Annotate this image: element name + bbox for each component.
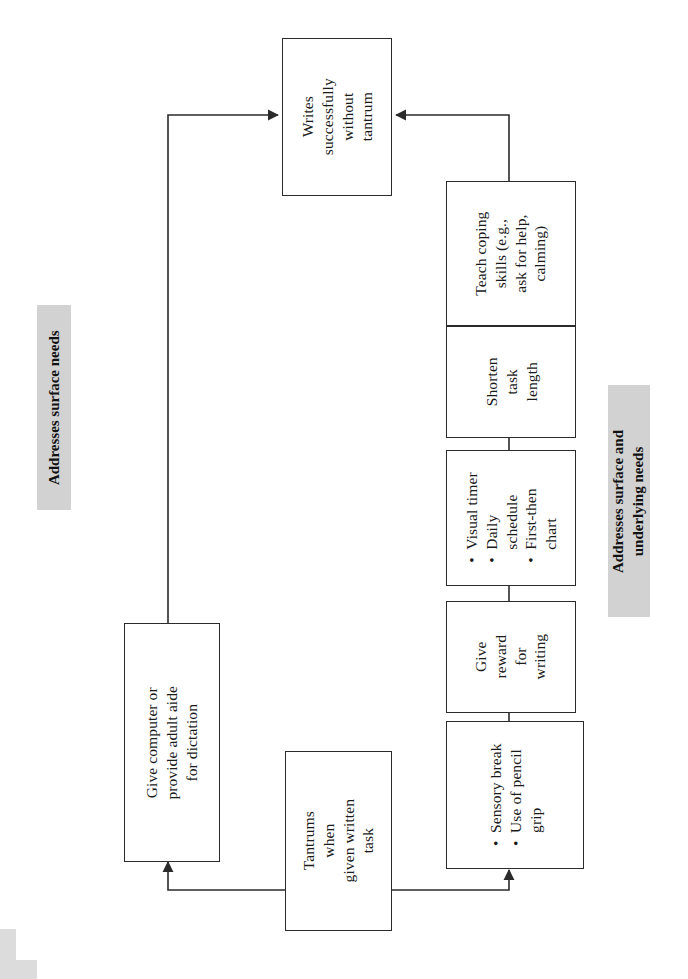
node-shorten-task-length-label: Shorten task length xyxy=(481,358,540,407)
node-coping-skills[interactable]: Teach coping skills (e.g., ask for help,… xyxy=(446,181,576,326)
node-visual-supports-label: •Visual timer •Daily schedule •First-the… xyxy=(461,473,560,564)
page-edge-artifact-horizontal xyxy=(0,960,37,979)
bullet-item: •Visual timer xyxy=(461,473,481,564)
bullet-item: •First-then chart xyxy=(521,473,561,564)
node-sensory-supports[interactable]: •Sensory break •Use of pencil grip xyxy=(446,721,584,869)
node-coping-skills-label: Teach coping skills (e.g., ask for help,… xyxy=(471,211,550,295)
band-addresses-surface-and-underlying-needs: Addresses surface and underlying needs xyxy=(608,385,650,617)
diagram-canvas: Addresses surface needs Addresses surfac… xyxy=(0,0,688,979)
band-surface-underlying-line-0: Addresses surface and xyxy=(610,429,630,572)
node-visual-supports[interactable]: •Visual timer •Daily schedule •First-the… xyxy=(446,450,576,586)
node-sensory-supports-label: •Sensory break •Use of pencil grip xyxy=(485,744,544,847)
bullet-item: •Sensory break xyxy=(485,744,505,847)
band-surface-line-0: Addresses surface needs xyxy=(44,330,64,485)
bullet-item: •Daily schedule xyxy=(481,473,521,564)
node-trigger-tantrums-label: Tantrums when given written task xyxy=(299,799,378,883)
edge-trigger-to-sensory xyxy=(392,870,509,890)
band-addresses-surface-needs: Addresses surface needs xyxy=(37,305,71,510)
edge-coping-to-outcome xyxy=(396,115,509,181)
node-give-reward[interactable]: Give reward for writing xyxy=(446,601,576,713)
edge-dictation-to-outcome xyxy=(168,115,278,623)
node-dictation-support[interactable]: Give computer or provide adult aide for … xyxy=(124,623,220,862)
bullet-item: •Use of pencil grip xyxy=(505,744,545,847)
edge-trigger-to-dictation xyxy=(168,862,285,890)
node-shorten-task-length[interactable]: Shorten task length xyxy=(446,326,576,438)
node-trigger-tantrums[interactable]: Tantrums when given written task xyxy=(285,751,392,931)
band-surface-underlying-line-1: underlying needs xyxy=(629,429,649,572)
node-give-reward-label: Give reward for writing xyxy=(471,634,550,679)
node-dictation-support-label: Give computer or provide adult aide for … xyxy=(142,686,201,800)
node-outcome[interactable]: Writes successfully without tantrum xyxy=(282,38,392,196)
node-outcome-label: Writes successfully without tantrum xyxy=(297,79,376,156)
